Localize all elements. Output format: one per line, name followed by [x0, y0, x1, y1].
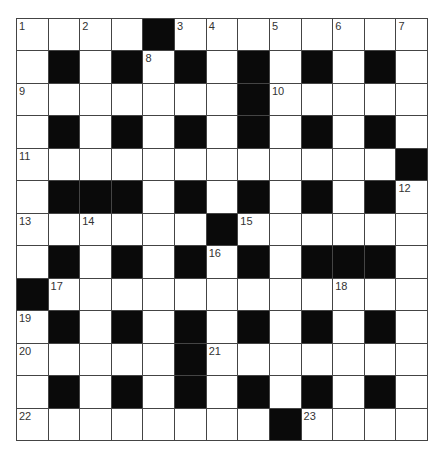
- crossword-cell[interactable]: [80, 116, 111, 147]
- crossword-cell[interactable]: [302, 279, 333, 310]
- crossword-cell[interactable]: 5: [270, 19, 301, 50]
- crossword-cell[interactable]: [207, 279, 238, 310]
- crossword-cell[interactable]: [175, 214, 206, 245]
- crossword-cell[interactable]: [396, 376, 427, 407]
- crossword-cell[interactable]: [143, 149, 174, 180]
- crossword-cell[interactable]: [333, 311, 364, 342]
- crossword-cell[interactable]: 16: [207, 246, 238, 277]
- crossword-cell[interactable]: [143, 84, 174, 115]
- crossword-cell[interactable]: [302, 344, 333, 375]
- crossword-cell[interactable]: 19: [17, 311, 48, 342]
- crossword-cell[interactable]: [112, 279, 143, 310]
- crossword-cell[interactable]: [143, 214, 174, 245]
- crossword-cell[interactable]: [333, 84, 364, 115]
- crossword-cell[interactable]: [396, 84, 427, 115]
- crossword-cell[interactable]: [365, 84, 396, 115]
- crossword-cell[interactable]: 17: [49, 279, 80, 310]
- crossword-cell[interactable]: [270, 246, 301, 277]
- crossword-cell[interactable]: [143, 344, 174, 375]
- crossword-cell[interactable]: [396, 116, 427, 147]
- crossword-cell[interactable]: [333, 116, 364, 147]
- crossword-cell[interactable]: [175, 279, 206, 310]
- crossword-cell[interactable]: [207, 409, 238, 440]
- crossword-cell[interactable]: [333, 409, 364, 440]
- crossword-cell[interactable]: 22: [17, 409, 48, 440]
- crossword-cell[interactable]: [270, 311, 301, 342]
- crossword-cell[interactable]: [207, 84, 238, 115]
- crossword-cell[interactable]: 14: [80, 214, 111, 245]
- crossword-cell[interactable]: [80, 311, 111, 342]
- crossword-cell[interactable]: [270, 51, 301, 82]
- crossword-cell[interactable]: [396, 214, 427, 245]
- crossword-cell[interactable]: [207, 311, 238, 342]
- crossword-cell[interactable]: [80, 149, 111, 180]
- crossword-cell[interactable]: [49, 344, 80, 375]
- crossword-cell[interactable]: 10: [270, 84, 301, 115]
- crossword-cell[interactable]: [207, 376, 238, 407]
- crossword-cell[interactable]: [207, 181, 238, 212]
- crossword-cell[interactable]: [17, 116, 48, 147]
- crossword-cell[interactable]: 9: [17, 84, 48, 115]
- crossword-cell[interactable]: [80, 376, 111, 407]
- crossword-cell[interactable]: [302, 214, 333, 245]
- crossword-cell[interactable]: [238, 19, 269, 50]
- crossword-cell[interactable]: [112, 84, 143, 115]
- crossword-cell[interactable]: [207, 149, 238, 180]
- crossword-cell[interactable]: [302, 149, 333, 180]
- crossword-cell[interactable]: 11: [17, 149, 48, 180]
- crossword-cell[interactable]: [270, 149, 301, 180]
- crossword-cell[interactable]: [49, 214, 80, 245]
- crossword-cell[interactable]: [175, 409, 206, 440]
- crossword-cell[interactable]: 15: [238, 214, 269, 245]
- crossword-cell[interactable]: [143, 116, 174, 147]
- crossword-cell[interactable]: [207, 51, 238, 82]
- crossword-cell[interactable]: [333, 344, 364, 375]
- crossword-cell[interactable]: [365, 344, 396, 375]
- crossword-cell[interactable]: 18: [333, 279, 364, 310]
- crossword-cell[interactable]: [175, 149, 206, 180]
- crossword-cell[interactable]: [17, 181, 48, 212]
- crossword-cell[interactable]: 7: [396, 19, 427, 50]
- crossword-cell[interactable]: [238, 149, 269, 180]
- crossword-cell[interactable]: [396, 279, 427, 310]
- crossword-cell[interactable]: [80, 246, 111, 277]
- crossword-cell[interactable]: 4: [207, 19, 238, 50]
- crossword-cell[interactable]: [238, 344, 269, 375]
- crossword-cell[interactable]: 12: [396, 181, 427, 212]
- crossword-cell[interactable]: [270, 344, 301, 375]
- crossword-cell[interactable]: [143, 246, 174, 277]
- crossword-cell[interactable]: 21: [207, 344, 238, 375]
- crossword-cell[interactable]: 20: [17, 344, 48, 375]
- crossword-cell[interactable]: [333, 181, 364, 212]
- crossword-cell[interactable]: [143, 311, 174, 342]
- crossword-cell[interactable]: [302, 84, 333, 115]
- crossword-cell[interactable]: 1: [17, 19, 48, 50]
- crossword-cell[interactable]: [49, 149, 80, 180]
- crossword-cell[interactable]: [143, 181, 174, 212]
- crossword-cell[interactable]: [365, 279, 396, 310]
- crossword-cell[interactable]: [17, 246, 48, 277]
- crossword-cell[interactable]: [80, 51, 111, 82]
- crossword-cell[interactable]: [238, 279, 269, 310]
- crossword-cell[interactable]: [49, 409, 80, 440]
- crossword-cell[interactable]: [80, 84, 111, 115]
- crossword-cell[interactable]: [333, 149, 364, 180]
- crossword-cell[interactable]: [80, 409, 111, 440]
- crossword-cell[interactable]: [396, 344, 427, 375]
- crossword-cell[interactable]: 3: [175, 19, 206, 50]
- crossword-cell[interactable]: 2: [80, 19, 111, 50]
- crossword-cell[interactable]: [112, 409, 143, 440]
- crossword-cell[interactable]: [302, 19, 333, 50]
- crossword-cell[interactable]: [270, 181, 301, 212]
- crossword-cell[interactable]: [396, 409, 427, 440]
- crossword-cell[interactable]: [112, 149, 143, 180]
- crossword-cell[interactable]: [365, 214, 396, 245]
- crossword-cell[interactable]: [112, 344, 143, 375]
- crossword-cell[interactable]: [143, 376, 174, 407]
- crossword-cell[interactable]: [270, 279, 301, 310]
- crossword-cell[interactable]: [49, 84, 80, 115]
- crossword-cell[interactable]: 23: [302, 409, 333, 440]
- crossword-cell[interactable]: [270, 376, 301, 407]
- crossword-cell[interactable]: [112, 214, 143, 245]
- crossword-cell[interactable]: [333, 214, 364, 245]
